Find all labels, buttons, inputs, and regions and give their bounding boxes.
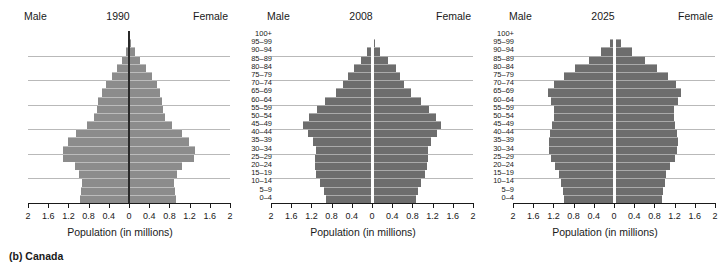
bar-female <box>372 154 428 162</box>
x-axis-tick <box>654 203 655 208</box>
bar-male <box>68 137 129 145</box>
bar-female <box>372 80 404 88</box>
female-side-label: Female <box>436 9 471 23</box>
bar-female <box>129 121 172 129</box>
bar-male <box>549 146 614 154</box>
bar-female <box>129 88 160 96</box>
bar-male <box>94 113 129 121</box>
bar-female <box>372 56 388 64</box>
bar-female <box>129 113 165 121</box>
bar-female <box>372 72 400 80</box>
bar-female <box>614 97 678 105</box>
bar-female <box>129 56 140 64</box>
x-axis-title: Population (in millions) <box>487 226 723 238</box>
bar-female <box>614 88 681 96</box>
bar-male <box>551 154 614 162</box>
bar-male <box>313 137 372 145</box>
figure-caption: (b) Canada <box>9 250 63 262</box>
bar-male <box>98 97 129 105</box>
x-axis-tick-label: 2 <box>702 210 725 222</box>
x-axis-tick <box>533 203 534 208</box>
x-axis-tick <box>210 203 211 208</box>
bar-male <box>308 129 372 137</box>
bar-female <box>372 187 418 195</box>
x-axis-tick <box>48 203 49 208</box>
x-axis-tick <box>149 203 150 208</box>
x-axis-tick <box>311 203 312 208</box>
bar-male <box>548 88 614 96</box>
x-axis-tick <box>553 203 554 208</box>
bar-female <box>372 105 429 113</box>
bar-female <box>614 64 657 72</box>
bar-female <box>129 170 177 178</box>
age-group-axis-labels: 100+95–9990–9485–8980–8475–7970–7465–696… <box>236 29 272 207</box>
bar-female <box>614 129 677 137</box>
bar-male <box>564 72 615 80</box>
bar-female <box>372 113 436 121</box>
female-side-label: Female <box>193 9 228 23</box>
bar-male <box>320 178 372 186</box>
population-pyramid-figure: Male1990Female21.61.20.80.400.40.81.21.6… <box>0 0 725 271</box>
x-axis-tick-labels: 21.61.20.80.400.40.81.21.62 <box>10 210 248 222</box>
bar-male <box>550 129 614 137</box>
bar-male <box>102 88 129 96</box>
x-axis-tick <box>675 203 676 208</box>
x-axis-title: Population (in millions) <box>245 226 481 238</box>
bar-female <box>614 72 668 80</box>
bar-male <box>106 80 129 88</box>
bar-male <box>563 187 615 195</box>
bar-male <box>316 170 372 178</box>
bar-male <box>79 170 129 178</box>
age-group-label: 0–4 <box>478 194 514 202</box>
x-axis-tick-labels: 21.61.20.80.400.40.81.21.62 <box>253 210 491 222</box>
bar-male <box>63 146 129 154</box>
x-axis-tick <box>453 203 454 208</box>
bar-male <box>348 72 372 80</box>
x-axis-tick <box>352 203 353 208</box>
bar-female <box>614 162 670 170</box>
plot-area <box>513 31 715 203</box>
x-axis-tick <box>332 203 333 208</box>
bar-male <box>589 56 614 64</box>
x-axis-tick-label: 2 <box>460 210 486 222</box>
bar-female <box>129 137 189 145</box>
bar-female <box>372 137 431 145</box>
bar-female <box>372 121 441 129</box>
center-axis-line <box>371 31 374 203</box>
x-axis <box>28 203 230 209</box>
bar-male <box>324 187 372 195</box>
bar-female <box>372 170 425 178</box>
bar-female <box>129 64 146 72</box>
bar-male <box>81 187 129 195</box>
bar-female <box>614 80 676 88</box>
bar-female <box>372 129 437 137</box>
bar-female <box>372 178 421 186</box>
bar-female <box>614 113 674 121</box>
bar-female <box>372 88 411 96</box>
bar-female <box>129 162 182 170</box>
center-axis-line <box>613 31 616 203</box>
female-side-label: Female <box>678 9 713 23</box>
bar-female <box>614 195 662 203</box>
bar-male <box>112 72 129 80</box>
bar-male <box>316 146 372 154</box>
bar-female <box>129 146 195 154</box>
x-axis-tick <box>634 203 635 208</box>
bar-male <box>326 195 372 203</box>
bar-female <box>614 121 675 129</box>
bar-male <box>552 121 614 129</box>
bar-male <box>564 195 615 203</box>
x-axis-tick <box>169 203 170 208</box>
bar-female <box>614 56 645 64</box>
bar-male <box>76 129 129 137</box>
bar-male <box>63 154 129 162</box>
pyramid-panel-2008: Male2008Female21.61.20.80.400.40.81.21.6… <box>245 0 485 240</box>
x-axis-tick <box>392 203 393 208</box>
x-axis-tick <box>28 203 29 208</box>
x-axis-tick <box>190 203 191 208</box>
bar-male <box>87 121 129 129</box>
bar-male <box>303 121 372 129</box>
plot-area <box>28 31 230 203</box>
bar-female <box>372 97 421 105</box>
bar-female <box>129 178 174 186</box>
